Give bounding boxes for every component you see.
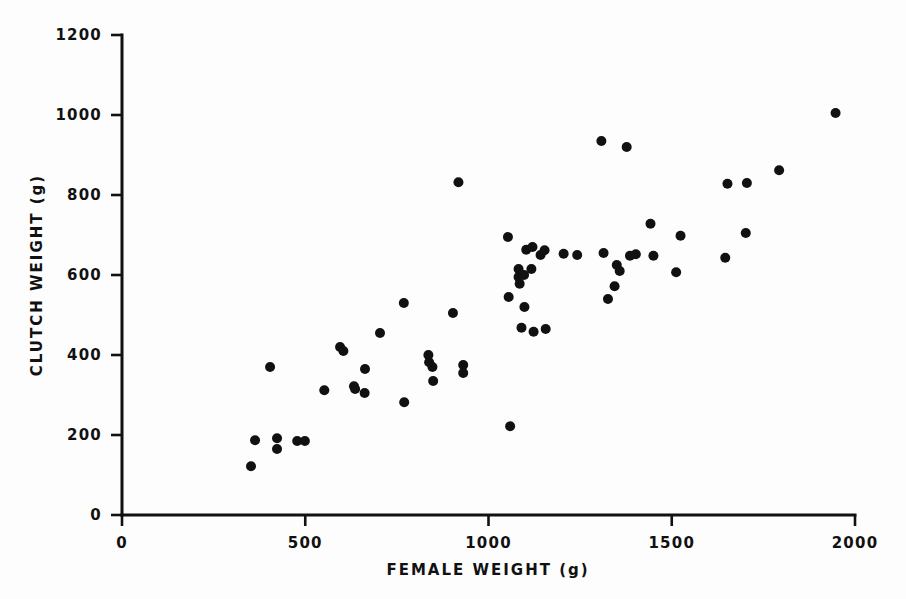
data-point [250, 435, 260, 445]
data-point [742, 178, 752, 188]
data-point [458, 368, 468, 378]
x-tick-label: 0 [116, 534, 128, 552]
data-point [671, 267, 681, 277]
chart-canvas: 020040060080010001200 0500100015002000 F… [0, 0, 906, 599]
data-point [622, 142, 632, 152]
data-point [610, 281, 620, 291]
data-point [350, 384, 360, 394]
y-tick-label: 1000 [55, 106, 102, 124]
data-point [427, 362, 437, 372]
data-point [572, 250, 582, 260]
data-point [338, 346, 348, 356]
data-point [722, 179, 732, 189]
y-tick-label: 0 [90, 506, 102, 524]
data-point [319, 385, 329, 395]
y-axis-title: CLUTCH WEIGHT (g) [28, 174, 46, 376]
data-point [516, 323, 526, 333]
data-point [399, 397, 409, 407]
data-point [599, 248, 609, 258]
data-point [503, 232, 513, 242]
data-point [519, 270, 529, 280]
axes-group [122, 35, 855, 515]
data-point [428, 376, 438, 386]
data-points-group [246, 108, 841, 471]
scatter-plot-figure: 020040060080010001200 0500100015002000 F… [0, 0, 906, 599]
data-point [399, 298, 409, 308]
x-tick-label: 500 [288, 534, 323, 552]
y-axis-ticks: 020040060080010001200 [55, 26, 122, 524]
x-tick-label: 1000 [465, 534, 512, 552]
data-point [453, 177, 463, 187]
y-tick-label: 600 [67, 266, 102, 284]
data-point [648, 251, 658, 261]
y-tick-label: 1200 [55, 26, 102, 44]
data-point [272, 433, 282, 443]
data-point [631, 249, 641, 259]
data-point [246, 461, 256, 471]
y-tick-label: 200 [67, 426, 102, 444]
data-point [360, 364, 370, 374]
data-point [529, 327, 539, 337]
x-axis-title: FEMALE WEIGHT (g) [386, 561, 589, 579]
data-point [375, 328, 385, 338]
data-point [596, 136, 606, 146]
y-tick-label: 800 [67, 186, 102, 204]
data-point [676, 231, 686, 241]
data-point [603, 294, 613, 304]
data-point [741, 228, 751, 238]
y-tick-label: 400 [67, 346, 102, 364]
data-point [519, 302, 529, 312]
data-point [515, 279, 525, 289]
data-point [541, 324, 551, 334]
data-point [527, 242, 537, 252]
x-tick-label: 2000 [832, 534, 879, 552]
data-point [774, 165, 784, 175]
data-point [504, 292, 514, 302]
data-point [300, 436, 310, 446]
data-point [831, 108, 841, 118]
x-axis-ticks: 0500100015002000 [116, 515, 878, 552]
data-point [272, 444, 282, 454]
data-point [505, 421, 515, 431]
data-point [360, 388, 370, 398]
x-tick-label: 1500 [648, 534, 695, 552]
data-point [645, 219, 655, 229]
data-point [615, 266, 625, 276]
data-point [559, 249, 569, 259]
data-point [448, 308, 458, 318]
data-point [265, 362, 275, 372]
data-point [540, 245, 550, 255]
data-point [720, 253, 730, 263]
